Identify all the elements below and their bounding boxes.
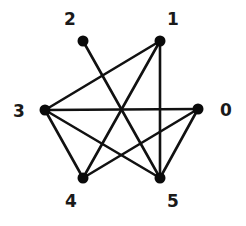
node-label-2: 2: [64, 9, 76, 29]
graph-diagram: 012345: [0, 0, 246, 226]
node-label-4: 4: [65, 191, 77, 211]
node-3: [40, 105, 51, 116]
node-4: [78, 173, 89, 184]
node-label-1: 1: [167, 9, 179, 29]
edge-1-3: [45, 41, 160, 110]
node-label-3: 3: [13, 101, 25, 121]
node-label-0: 0: [220, 100, 232, 120]
node-label-5: 5: [167, 191, 179, 211]
node-2: [78, 36, 89, 47]
edge-3-0: [45, 109, 198, 110]
node-5: [155, 173, 166, 184]
node-1: [155, 36, 166, 47]
edges-group: [45, 41, 198, 178]
node-0: [193, 104, 204, 115]
